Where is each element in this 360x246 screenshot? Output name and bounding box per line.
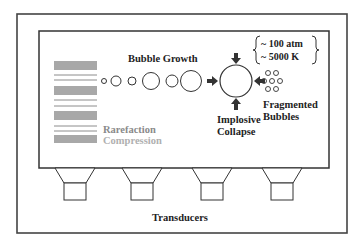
transducer-4 (262, 168, 302, 200)
fragmented-label-line1: Fragmented (263, 99, 318, 110)
acoustic-wave-stripes (54, 61, 97, 120)
compression-band (54, 111, 97, 120)
transducer-1 (55, 168, 95, 200)
transducers-label: Transducers (152, 212, 208, 223)
temperature-value: ~ 5000 K (261, 51, 299, 62)
transducer-2 (122, 168, 162, 200)
sonochemistry-diagram: Rarefaction Compression Bubble Growth (0, 0, 360, 246)
transducers (55, 168, 302, 200)
implosive-label-line2: Collapse (217, 126, 256, 137)
legend-rarefaction-label: Rarefaction (103, 124, 156, 135)
compression-band (54, 61, 97, 70)
bubble-growth-label: Bubble Growth (128, 53, 198, 64)
implosive-label-line1: Implosive (217, 114, 261, 125)
transducer-3 (192, 168, 232, 200)
fragmented-label-line2: Bubbles (263, 111, 299, 122)
pressure-value: ~ 100 atm (261, 38, 304, 49)
compression-band (54, 86, 97, 95)
legend-compression-swatch (54, 135, 97, 143)
legend-compression-label: Compression (103, 135, 162, 146)
